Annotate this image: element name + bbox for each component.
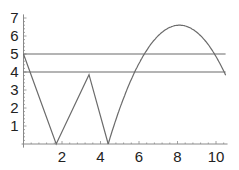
axes <box>22 14 228 147</box>
y-tick-label: 5 <box>10 45 18 62</box>
series-parabola <box>108 25 225 144</box>
y-tick-label: 2 <box>10 99 18 116</box>
y-tick-label: 3 <box>10 81 18 98</box>
y-tick-label: 6 <box>10 27 18 44</box>
axis-ticks <box>24 18 224 144</box>
x-tick-label: 2 <box>58 148 66 165</box>
y-tick-label: 4 <box>10 63 18 80</box>
series-polyline <box>24 54 109 144</box>
x-tick-label: 10 <box>208 148 225 165</box>
y-tick-label: 1 <box>10 117 18 134</box>
y-tick-label: 7 <box>10 9 18 26</box>
x-tick-label: 8 <box>173 148 181 165</box>
chart-series <box>24 25 226 144</box>
line-chart: 2468101234567 <box>0 0 239 170</box>
x-tick-label: 4 <box>96 148 104 165</box>
x-tick-label: 6 <box>135 148 143 165</box>
axis-tick-labels: 2468101234567 <box>10 9 224 165</box>
